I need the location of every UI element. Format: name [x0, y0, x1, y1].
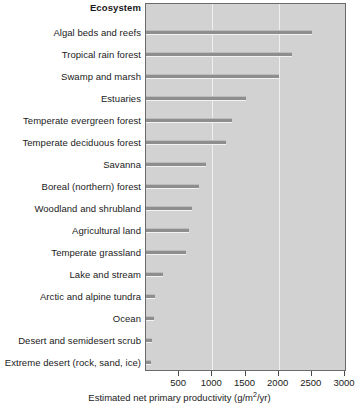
table-row: Extreme desert (rock, sand, ice): [0, 351, 346, 373]
table-row: Arctic and alpine tundra: [0, 285, 346, 307]
bar-track: [145, 43, 346, 65]
bar-track: [145, 329, 346, 351]
bar-track: [145, 241, 346, 263]
bar-track: [145, 285, 346, 307]
x-tick-label: 3000: [333, 377, 354, 389]
table-row: Agricultural land: [0, 219, 346, 241]
bar: [146, 118, 232, 123]
bar: [146, 74, 279, 79]
x-axis-title-suffix: /yr): [257, 392, 271, 403]
x-axis-title: Estimated net primary productivity (g/m2…: [0, 391, 359, 404]
bar-track: [145, 131, 346, 153]
x-tick-label: 500: [170, 377, 186, 389]
bar: [146, 360, 151, 365]
table-row: Woodland and shrubland: [0, 197, 346, 219]
x-axis-title-prefix: Estimated net primary productivity (g/m: [88, 392, 253, 403]
category-label: Lake and stream: [0, 269, 141, 280]
table-row: Estuaries: [0, 87, 346, 109]
x-tick-label: 1000: [201, 377, 222, 389]
bar: [146, 294, 155, 299]
x-tick: [278, 371, 279, 376]
x-tick: [178, 371, 179, 376]
table-row: Boreal (northern) forest: [0, 175, 346, 197]
category-label: Desert and semidesert scrub: [0, 335, 141, 346]
x-tick: [344, 371, 345, 376]
x-tick: [311, 371, 312, 376]
category-label: Tropical rain forest: [0, 49, 141, 60]
table-row: Tropical rain forest: [0, 43, 346, 65]
category-label: Estuaries: [0, 93, 141, 104]
table-row: Desert and semidesert scrub: [0, 329, 346, 351]
bar-track: [145, 351, 346, 373]
table-row: Lake and stream: [0, 263, 346, 285]
bar-track: [145, 307, 346, 329]
bar-track: [145, 153, 346, 175]
category-label: Savanna: [0, 159, 141, 170]
category-label: Extreme desert (rock, sand, ice): [0, 357, 141, 368]
category-label: Arctic and alpine tundra: [0, 291, 141, 302]
category-label: Agricultural land: [0, 225, 141, 236]
category-label: Temperate grassland: [0, 247, 141, 258]
bar: [146, 316, 154, 321]
x-tick: [211, 371, 212, 376]
x-tick-label: 1500: [234, 377, 255, 389]
productivity-bar-chart: Ecosystem Algal beds and reefsTropical r…: [0, 0, 359, 407]
category-label: Boreal (northern) forest: [0, 181, 141, 192]
bar-track: [145, 263, 346, 285]
x-tick: [245, 371, 246, 376]
bar-track: [145, 175, 346, 197]
bar: [146, 140, 226, 145]
x-tick-label: 2500: [300, 377, 321, 389]
bar-track: [145, 87, 346, 109]
table-row: Savanna: [0, 153, 346, 175]
category-label: Algal beds and reefs: [0, 27, 141, 38]
category-label: Swamp and marsh: [0, 71, 141, 82]
bar-track: [145, 197, 346, 219]
bar-track: [145, 65, 346, 87]
table-row: Swamp and marsh: [0, 65, 346, 87]
x-axis-ticks: [145, 371, 346, 376]
table-row: Algal beds and reefs: [0, 21, 346, 43]
bar-track: [145, 109, 346, 131]
x-tick-label: 2000: [267, 377, 288, 389]
table-row: Temperate evergreen forest: [0, 109, 346, 131]
bar: [146, 184, 199, 189]
category-label: Woodland and shrubland: [0, 203, 141, 214]
table-row: Temperate grassland: [0, 241, 346, 263]
category-label: Temperate evergreen forest: [0, 115, 141, 126]
bar: [146, 228, 189, 233]
x-axis-tick-labels: 50010001500200025003000: [0, 377, 359, 391]
bar: [146, 162, 206, 167]
table-row: Ocean: [0, 307, 346, 329]
table-row: Temperate deciduous forest: [0, 131, 346, 153]
bar: [146, 338, 152, 343]
bar-rows: Algal beds and reefsTropical rain forest…: [0, 3, 346, 371]
category-label: Temperate deciduous forest: [0, 137, 141, 148]
bar-track: [145, 219, 346, 241]
category-label: Ocean: [0, 313, 141, 324]
bar-track: [145, 21, 346, 43]
bar: [146, 272, 163, 277]
bar: [146, 206, 192, 211]
bar: [146, 250, 186, 255]
bar: [146, 96, 246, 101]
bar: [146, 52, 292, 57]
bar: [146, 30, 312, 35]
